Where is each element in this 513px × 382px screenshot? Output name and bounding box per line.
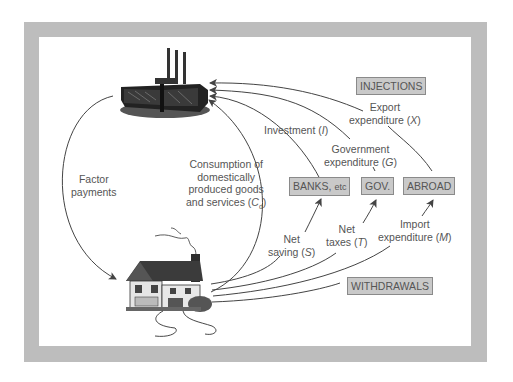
consumption-label: Consumption of domestically produced goo…: [186, 158, 266, 213]
gov-label: GOV.: [365, 180, 390, 192]
withdrawals-box: WITHDRAWALS: [347, 277, 433, 295]
banks-suffix: etc: [334, 182, 346, 192]
export-expenditure-arrow: [210, 83, 363, 111]
factor-payments-label: Factorpayments: [71, 173, 117, 198]
net-taxes-withdrawal-line: [212, 253, 336, 290]
import-arrow: [422, 200, 433, 216]
net-taxes-label: Net taxes (T): [326, 223, 367, 248]
net-taxes-arrow: [363, 200, 376, 223]
banks-box: BANKS, etc: [289, 177, 350, 196]
abroad-label: ABROAD: [407, 180, 451, 192]
injections-label: INJECTIONS: [360, 80, 422, 92]
withdrawals-label: WITHDRAWALS: [351, 280, 429, 292]
abroad-box: ABROAD: [403, 177, 455, 195]
withdrawal-line-extra: [212, 283, 340, 302]
factory-icon: [120, 48, 210, 118]
banks-label: BANKS,: [293, 180, 332, 192]
export-expenditure-label: Export expenditure (X): [349, 101, 421, 126]
net-saving-label: Net saving (S): [268, 233, 315, 258]
government-expenditure-label: Government expenditure (G): [324, 143, 397, 168]
net-saving-arrow: [305, 199, 321, 232]
investment-label: Investment (I): [264, 124, 328, 137]
injections-box: INJECTIONS: [356, 77, 426, 95]
house-icon: [126, 228, 216, 336]
import-expenditure-label: Import expenditure (M): [378, 218, 452, 243]
gov-box: GOV.: [361, 177, 394, 195]
